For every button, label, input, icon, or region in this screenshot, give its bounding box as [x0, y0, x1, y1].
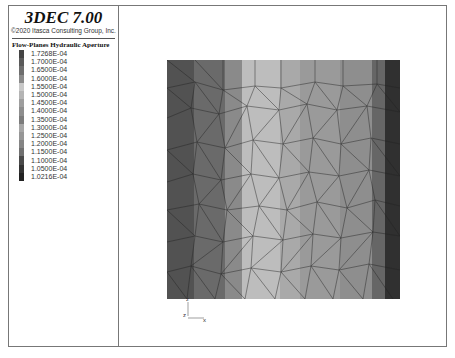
legend-label: 1.2500E-04 [31, 132, 67, 140]
legend-item: 1.4000E-04 [19, 107, 67, 115]
legend-item: 1.1500E-04 [19, 148, 67, 156]
legend-item: 1.3000E-04 [19, 124, 67, 132]
legend-item: 1.1000E-04 [19, 156, 67, 164]
color-legend: 1.7268E-041.7000E-041.6500E-041.6000E-04… [19, 50, 67, 181]
legend-item: 1.0216E-04 [19, 173, 67, 181]
legend-label: 1.4500E-04 [31, 99, 67, 107]
copyright-text: ©2020 Itasca Consulting Group, Inc. [9, 27, 118, 34]
legend-swatch [19, 124, 24, 132]
legend-label: 1.7268E-04 [31, 50, 67, 58]
legend-title: Flow-Planes Hydraulic Aperture [12, 41, 109, 49]
legend-swatch [19, 75, 24, 83]
legend-label: 1.5000E-04 [31, 91, 67, 99]
legend-swatch [19, 107, 24, 115]
legend-label: 1.0216E-04 [31, 173, 67, 181]
legend-swatch [19, 165, 24, 173]
axis-z-label: z [186, 296, 189, 302]
legend-label: 1.7000E-04 [31, 58, 67, 66]
legend-item: 1.2000E-04 [19, 140, 67, 148]
legend-item: 1.2500E-04 [19, 132, 67, 140]
legend-item: 1.5500E-04 [19, 83, 67, 91]
legend-item: 1.5000E-04 [19, 91, 67, 99]
legend-swatch [19, 83, 24, 91]
legend-label: 1.5500E-04 [31, 83, 67, 91]
legend-label: 1.0500E-04 [31, 165, 67, 173]
legend-label: 1.1000E-04 [31, 157, 67, 165]
legend-label: 1.6500E-04 [31, 66, 67, 74]
legend-swatch [19, 148, 24, 156]
legend-item: 1.7268E-04 [19, 50, 67, 58]
legend-item: 1.6500E-04 [19, 66, 67, 74]
legend-swatch [19, 99, 24, 107]
legend-swatch [19, 116, 24, 124]
legend-item: 1.4500E-04 [19, 99, 67, 107]
legend-item: 1.0500E-04 [19, 165, 67, 173]
legend-swatch [19, 132, 24, 140]
legend-swatch [19, 58, 24, 66]
mesh-lines [167, 60, 400, 299]
legend-swatch [19, 91, 24, 99]
axis-triad: z z x [180, 300, 210, 332]
legend-item: 1.7000E-04 [19, 58, 67, 66]
legend-label: 1.1500E-04 [31, 148, 67, 156]
legend-swatch [19, 66, 24, 74]
legend-label: 1.4000E-04 [31, 107, 67, 115]
legend-swatch [19, 173, 24, 181]
panel-divider [118, 5, 119, 347]
legend-label: 1.3000E-04 [31, 124, 67, 132]
legend-separator [12, 38, 115, 39]
legend-item: 1.3500E-04 [19, 116, 67, 124]
legend-swatch [19, 156, 24, 164]
legend-swatch [19, 50, 24, 58]
axis-x-label: x [203, 317, 206, 323]
legend-item: 1.6000E-04 [19, 75, 67, 83]
app-title: 3DEC 7.00 [9, 8, 118, 28]
axis-origin-label: z [183, 312, 186, 318]
legend-label: 1.2000E-04 [31, 140, 67, 148]
aperture-contour-plot[interactable] [167, 60, 400, 299]
legend-swatch [19, 140, 24, 148]
legend-label: 1.3500E-04 [31, 116, 67, 124]
legend-label: 1.6000E-04 [31, 75, 67, 83]
